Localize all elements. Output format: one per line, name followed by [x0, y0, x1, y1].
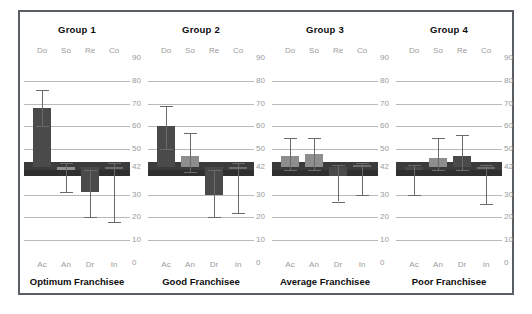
- bottom-axis-labels: AcAnDrIn: [24, 260, 130, 272]
- error-bar-cap-lower: [232, 213, 245, 214]
- y-axis-tick-label: 0: [504, 259, 508, 267]
- gridline: [148, 104, 254, 105]
- bottom-axis-labels: AcAnDrIn: [396, 260, 502, 272]
- y-axis-tick-label: 70: [380, 100, 389, 108]
- panel-caption: Poor Franchisee: [388, 276, 510, 287]
- bottom-axis-tick-label: An: [426, 260, 450, 269]
- error-bar-cap-lower: [84, 217, 97, 218]
- error-bar-cap-upper: [208, 170, 221, 171]
- y-axis-tick-label: 80: [256, 77, 265, 85]
- bottom-axis-tick-label: Dr: [78, 260, 102, 269]
- bottom-axis-tick-label: Ac: [154, 260, 178, 269]
- top-axis-tick-label: Do: [402, 46, 426, 55]
- gridline: [272, 126, 378, 127]
- error-bar-cap-lower: [208, 217, 221, 218]
- top-axis-labels: DoSoReCo: [24, 46, 130, 58]
- bottom-axis-labels: AcAnDrIn: [148, 260, 254, 272]
- error-bar-line: [42, 90, 43, 126]
- error-bar-cap-upper: [332, 165, 345, 166]
- error-bar-line: [362, 163, 363, 195]
- y-axis-tick-label: 70: [504, 100, 513, 108]
- y-axis-tick-label: 30: [504, 191, 513, 199]
- y-axis-tick-label: 20: [132, 213, 141, 221]
- error-bar-line: [462, 135, 463, 169]
- error-bar-cap-upper: [432, 138, 445, 139]
- y-axis-tick-label: 42: [380, 163, 389, 171]
- bottom-axis-tick-label: Ac: [402, 260, 426, 269]
- error-bar-line: [438, 138, 439, 170]
- error-bar-line: [238, 163, 239, 213]
- error-bar-line: [414, 165, 415, 195]
- y-axis-tick-label: 80: [132, 77, 141, 85]
- bottom-axis-tick-label: Dr: [326, 260, 350, 269]
- bottom-axis-tick-label: In: [474, 260, 498, 269]
- error-bar-line: [114, 163, 115, 222]
- bottom-axis-tick-label: Ac: [278, 260, 302, 269]
- plot-area: 0102030425060708090: [148, 58, 254, 263]
- y-axis-tick-label: 10: [504, 236, 513, 244]
- plot-area: 0102030425060708090: [396, 58, 502, 263]
- error-bar-cap-lower: [108, 222, 121, 223]
- panel-caption: Good Franchisee: [140, 276, 262, 287]
- error-bar-cap-upper: [108, 163, 121, 164]
- bottom-axis-tick-label: An: [54, 260, 78, 269]
- panel-container: Group 1DoSoReCo0102030425060708090AcAnDr…: [18, 10, 514, 295]
- error-bar-line: [486, 165, 487, 204]
- top-axis-tick-label: Do: [154, 46, 178, 55]
- bottom-axis-labels: AcAnDrIn: [272, 260, 378, 272]
- y-axis-tick-label: 60: [504, 122, 513, 130]
- top-axis-tick-label: Co: [226, 46, 250, 55]
- chart-figure: Group 1DoSoReCo0102030425060708090AcAnDr…: [0, 0, 532, 314]
- y-axis-tick-label: 0: [380, 259, 384, 267]
- error-bar-cap-lower: [308, 170, 321, 171]
- bottom-axis-tick-label: Dr: [450, 260, 474, 269]
- gridline: [396, 126, 502, 127]
- y-axis-tick-label: 10: [380, 236, 389, 244]
- y-axis-tick-label: 42: [504, 163, 513, 171]
- top-axis-tick-label: Re: [202, 46, 226, 55]
- error-bar-cap-upper: [284, 138, 297, 139]
- bottom-axis-tick-label: An: [302, 260, 326, 269]
- gridline: [148, 81, 254, 82]
- y-axis-tick-label: 70: [132, 100, 141, 108]
- y-axis-tick-label: 90: [504, 54, 513, 62]
- top-axis-labels: DoSoReCo: [272, 46, 378, 58]
- error-bar-cap-upper: [184, 133, 197, 134]
- top-axis-tick-label: Re: [450, 46, 474, 55]
- chart-panel: Group 1DoSoReCo0102030425060708090AcAnDr…: [24, 10, 148, 295]
- error-bar-cap-upper: [408, 165, 421, 166]
- gridline: [24, 81, 130, 82]
- error-bar-cap-lower: [332, 202, 345, 203]
- top-axis-tick-label: Do: [30, 46, 54, 55]
- top-axis-tick-label: Co: [350, 46, 374, 55]
- error-bar-cap-upper: [232, 163, 245, 164]
- y-axis-tick-label: 0: [256, 259, 260, 267]
- top-axis-tick-label: Co: [474, 46, 498, 55]
- error-bar-cap-lower: [480, 204, 493, 205]
- error-bar-cap-upper: [456, 135, 469, 136]
- plot-area: 0102030425060708090: [24, 58, 130, 263]
- error-bar-cap-lower: [356, 195, 369, 196]
- gridline: [272, 149, 378, 150]
- y-axis-tick-label: 42: [256, 163, 265, 171]
- error-bar-cap-lower: [36, 126, 49, 127]
- y-axis-tick-label: 20: [380, 213, 389, 221]
- group-title: Group 4: [396, 24, 502, 35]
- top-axis-tick-label: Co: [102, 46, 126, 55]
- y-axis-tick-label: 10: [132, 236, 141, 244]
- gridline: [396, 217, 502, 218]
- error-bar-cap-lower: [456, 170, 469, 171]
- y-axis-tick-label: 10: [256, 236, 265, 244]
- y-axis-tick-label: 30: [132, 191, 141, 199]
- error-bar-cap-lower: [284, 170, 297, 171]
- bottom-axis-tick-label: In: [226, 260, 250, 269]
- y-axis-tick-label: 0: [132, 259, 136, 267]
- bottom-axis-tick-label: In: [350, 260, 374, 269]
- gridline: [396, 240, 502, 241]
- top-axis-tick-label: So: [54, 46, 78, 55]
- gridline: [396, 104, 502, 105]
- gridline: [272, 81, 378, 82]
- y-axis-tick-label: 60: [132, 122, 141, 130]
- error-bar-cap-lower: [184, 172, 197, 173]
- y-axis-tick-label: 20: [504, 213, 513, 221]
